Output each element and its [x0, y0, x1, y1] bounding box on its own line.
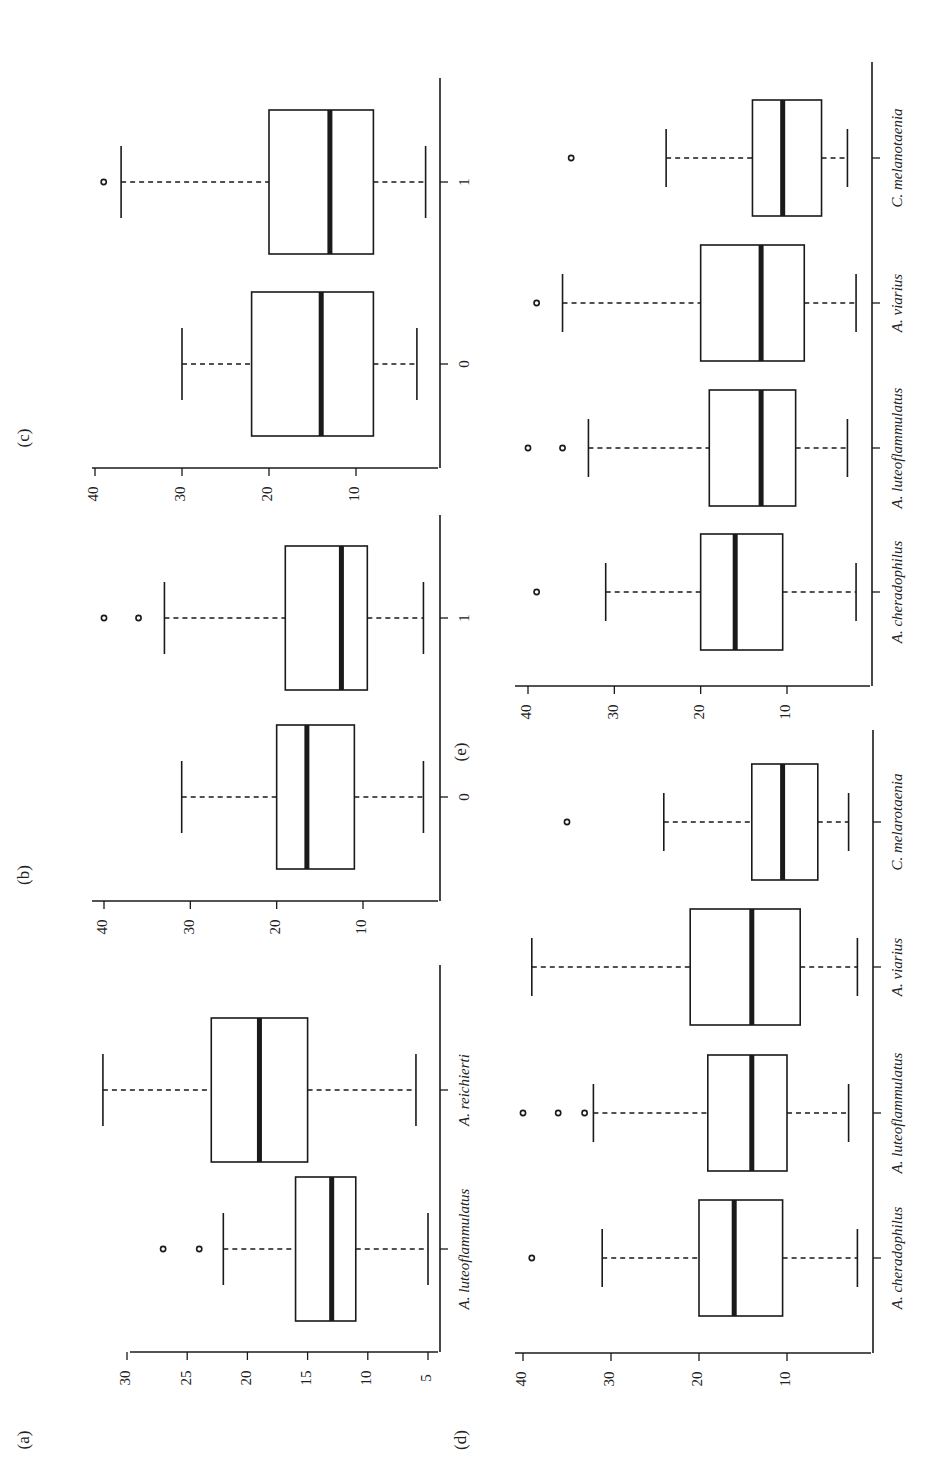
- outlier-point: [556, 1110, 561, 1115]
- category-label: 0: [456, 360, 472, 368]
- iqr-box: [701, 245, 805, 361]
- iqr-box: [708, 1055, 787, 1171]
- iqr-box: [277, 725, 355, 869]
- value-tick-label: 10: [358, 1371, 374, 1386]
- value-tick-label: 10: [777, 705, 793, 720]
- box-0: 0: [182, 725, 473, 869]
- box-c-melarotaenia: C. melarotaenia: [564, 764, 905, 880]
- box-1: 1: [101, 546, 472, 690]
- value-tick-label: 20: [238, 1371, 254, 1386]
- box-a-viarius: A. viarius: [532, 909, 906, 1025]
- iqr-box: [252, 292, 374, 436]
- box-a-cheradophilus: A. cheradophilus: [534, 534, 905, 650]
- panel-label: (a): [14, 1431, 33, 1450]
- value-tick-label: 15: [298, 1371, 314, 1386]
- panel-c: (c)1020304001: [14, 78, 473, 502]
- box-1: 1: [101, 110, 472, 254]
- iqr-box: [269, 110, 373, 254]
- outlier-point: [569, 155, 574, 160]
- category-label: A. viarius: [889, 938, 905, 997]
- outlier-point: [161, 1246, 166, 1251]
- value-tick-label: 40: [94, 920, 110, 935]
- value-tick-label: 10: [777, 1372, 793, 1387]
- category-label: A. luteoflammulatus: [456, 1188, 472, 1310]
- iqr-box: [701, 534, 783, 650]
- iqr-box: [699, 1200, 783, 1316]
- value-tick-label: 40: [513, 1372, 529, 1387]
- category-label: A. cheradophilus: [889, 1207, 905, 1311]
- box-0: 0: [182, 292, 472, 436]
- panel-label: (e): [451, 743, 470, 762]
- box-a-luteoflammulatus: A. luteoflammulatus: [520, 1052, 905, 1174]
- iqr-box: [285, 546, 367, 690]
- value-tick-label: 20: [691, 705, 707, 720]
- value-tick-label: 20: [259, 487, 275, 502]
- category-label: 1: [456, 178, 472, 186]
- panel-b: (b)1020304001: [14, 515, 473, 935]
- panel-label: (b): [14, 865, 33, 885]
- panel-label: (d): [451, 1430, 470, 1450]
- value-tick-label: 30: [172, 487, 188, 502]
- iqr-box: [709, 390, 795, 506]
- box-a-luteoflammulatus: A. luteoflammulatus: [161, 1177, 473, 1321]
- box-a-viarius: A. viarius: [534, 245, 905, 361]
- outlier-point: [560, 445, 565, 450]
- panel-label: (c): [14, 429, 33, 448]
- value-tick-label: 30: [601, 1372, 617, 1387]
- panel-d: (d)10203040A. cheradophilusA. luteoflamm…: [451, 730, 906, 1450]
- value-tick-label: 20: [267, 920, 283, 935]
- value-tick-label: 30: [181, 920, 197, 935]
- category-label: A. reichierti: [456, 1054, 472, 1127]
- outlier-point: [136, 615, 141, 620]
- value-tick-label: 10: [353, 920, 369, 935]
- outlier-point: [520, 1110, 525, 1115]
- boxplot-figure: (a)51015202530A. luteoflammulatusA. reic…: [0, 0, 947, 1470]
- outlier-point: [197, 1246, 202, 1251]
- value-tick-label: 30: [605, 705, 621, 720]
- outlier-point: [525, 445, 530, 450]
- category-label: A. viarius: [889, 274, 905, 333]
- value-tick-label: 40: [518, 705, 534, 720]
- outlier-point: [534, 589, 539, 594]
- value-tick-label: 20: [689, 1372, 705, 1387]
- value-tick-label: 5: [418, 1374, 434, 1382]
- outlier-point: [564, 819, 569, 824]
- box-a-cheradophilus: A. cheradophilus: [529, 1200, 905, 1316]
- category-label: C. melanotaenia: [889, 108, 905, 207]
- outlier-point: [529, 1255, 534, 1260]
- box-c-melanotaenia: C. melanotaenia: [569, 100, 906, 216]
- outlier-point: [101, 615, 106, 620]
- panel-a: (a)51015202530A. luteoflammulatusA. reic…: [14, 965, 473, 1449]
- outlier-point: [582, 1110, 587, 1115]
- category-label: A. luteoflammulatus: [889, 387, 905, 509]
- category-label: A. cheradophilus: [889, 541, 905, 645]
- value-tick-label: 40: [85, 487, 101, 502]
- iqr-box: [296, 1177, 356, 1321]
- category-label: 0: [456, 793, 472, 801]
- outlier-point: [534, 300, 539, 305]
- panel-e: (e)10203040A. cheradophilusA. luteoflamm…: [451, 62, 906, 761]
- box-a-reichierti: A. reichierti: [103, 1018, 473, 1162]
- value-tick-label: 30: [117, 1371, 133, 1386]
- category-label: C. melarotaenia: [889, 774, 905, 871]
- outlier-point: [101, 179, 106, 184]
- category-label: A. luteoflammulatus: [889, 1052, 905, 1174]
- iqr-box: [690, 909, 800, 1025]
- iqr-box: [752, 100, 821, 216]
- value-tick-label: 10: [346, 487, 362, 502]
- box-a-luteoflammulatus: A. luteoflammulatus: [525, 387, 905, 509]
- category-label: 1: [456, 614, 472, 622]
- value-tick-label: 25: [178, 1371, 194, 1386]
